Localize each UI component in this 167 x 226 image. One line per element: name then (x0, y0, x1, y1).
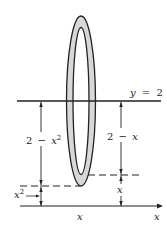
pointer-arrow-icon (36, 195, 40, 198)
inner-radius-label: 2 − x (107, 131, 138, 142)
outer-radius-dimension (22, 102, 58, 206)
outer-radius-label: 2 − x2 (26, 134, 61, 146)
x-axis-label: x (154, 211, 160, 222)
x-height-label: x (117, 184, 123, 195)
x-axis-arrow-icon (157, 204, 163, 209)
x-tick-label: x (77, 211, 83, 222)
washer-diagram: y = 2 x x 2 − x2 x2 2 − x (0, 0, 167, 226)
line-label: y = 2 (129, 87, 163, 98)
x-squared-label: x2 (14, 188, 24, 200)
